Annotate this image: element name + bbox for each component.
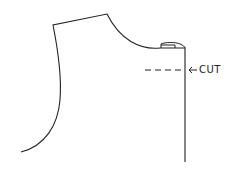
fold-tab (161, 43, 185, 49)
left-arrow-icon (189, 67, 197, 73)
pattern-piece-diagram (0, 0, 238, 196)
cut-label: CUT (199, 64, 221, 75)
pattern-outline (21, 14, 185, 162)
